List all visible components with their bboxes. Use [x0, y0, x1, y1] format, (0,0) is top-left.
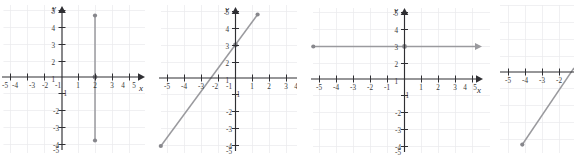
y-tick-b-p2: 2	[225, 60, 229, 68]
graph-choice-strip: -5 -4 -3 -2 -1 1 2 3 4 5 5 4 3 2 1 -1 -2…	[0, 0, 574, 158]
y-tick-b-p3: 3	[225, 43, 229, 51]
x-tick-d-m4: -4	[522, 77, 528, 85]
y-tick-c-m3: -3	[395, 127, 401, 135]
graph-a-canvas: -5 -4 -3 -2 -1 1 2 3 4 5 5 4 3 2 1 -1 -2…	[0, 0, 147, 158]
y-tick-b-m1: -1	[234, 91, 240, 99]
x-tick-a-p5: 5	[132, 82, 136, 90]
x-tick-c-m3: -3	[350, 84, 356, 92]
graph-choice-a[interactable]: -5 -4 -3 -2 -1 1 2 3 4 5 5 4 3 2 1 -1 -2…	[0, 0, 147, 158]
y-tick-a-p1: 1	[51, 76, 55, 84]
x-tick-c-m2: -2	[367, 84, 373, 92]
y-tick-c-p4: 4	[394, 27, 398, 35]
plot-line-b	[159, 12, 260, 148]
x-tick-a-p2: 2	[93, 82, 97, 90]
x-tick-a-m5: -5	[2, 82, 8, 90]
x-tick-d-m3: -3	[539, 77, 545, 85]
x-tick-c-m1: -1	[384, 84, 390, 92]
x-tick-a-p1: 1	[76, 82, 80, 90]
x-tick-c-m5: -5	[316, 84, 322, 92]
y-axis-label-a: y	[51, 3, 56, 13]
x-tick-b-p1: 1	[250, 83, 254, 91]
y-tick-a-m5: -5	[53, 147, 59, 155]
y-tick-b-p1: 1	[225, 77, 229, 85]
y-tick-b-m2: -2	[226, 109, 232, 117]
x-tick-b-p3: 3	[284, 83, 288, 91]
graph-c-canvas: -5 -4 -3 -2 -1 1 2 3 4 5 5 4 3 2 1 -1 -2…	[297, 0, 490, 158]
x-tick-c-p3: 3	[453, 84, 457, 92]
x-tick-b-p2: 2	[267, 83, 271, 91]
x-tick-d-m5: -5	[505, 77, 511, 85]
grid-a	[4, 5, 146, 153]
y-tick-a-p3: 3	[51, 42, 55, 50]
y-tick-a-m2: -2	[53, 108, 59, 116]
x-tick-c-p4: 4	[463, 84, 467, 92]
graph-d-canvas: -5 -4 -3 -2	[490, 0, 574, 158]
x-axis-label-c: x	[476, 85, 481, 95]
x-tick-a-m4: -4	[12, 82, 18, 90]
x-tick-d-m2: -2	[556, 77, 562, 85]
x-tick-a-p4: 4	[121, 82, 125, 90]
x-tick-b-m2: -2	[212, 83, 218, 91]
x-tick-b-m4: -4	[181, 83, 187, 91]
x-tick-a-m2: -2	[42, 82, 48, 90]
plot-line-d	[520, 68, 574, 147]
graph-choice-c[interactable]: -5 -4 -3 -2 -1 1 2 3 4 5 5 4 3 2 1 -1 -2…	[297, 0, 490, 158]
y-tick-c-m2: -2	[395, 110, 401, 118]
x-tick-c-m4: -4	[333, 84, 339, 92]
y-tick-c-m1: -1	[403, 92, 409, 100]
x-tick-b-m5: -5	[164, 83, 170, 91]
graph-choice-d[interactable]: -5 -4 -3 -2	[490, 0, 574, 158]
y-tick-c-m5: -5	[395, 149, 401, 157]
y-tick-a-p4: 4	[51, 25, 55, 33]
x-tick-c-p2: 2	[436, 84, 440, 92]
x-tick-a-m3: -3	[29, 82, 35, 90]
y-tick-b-p4: 4	[225, 26, 229, 34]
y-tick-a-m1: -1	[61, 90, 67, 98]
y-tick-c-p1: 1	[394, 78, 398, 86]
y-axis-label-c: y	[393, 5, 398, 15]
y-tick-c-p3: 3	[394, 44, 398, 52]
x-tick-a-p3: 3	[110, 82, 114, 90]
graph-choice-b[interactable]: -5 -4 -3 -2 -1 1 2 3 4 5 4 3 2 1 -1 -2 -…	[147, 0, 297, 158]
y-tick-a-m3: -3	[53, 125, 59, 133]
y-axis-label-b: y	[224, 4, 229, 14]
x-tick-b-m3: -3	[198, 83, 204, 91]
grid-d	[500, 5, 574, 153]
x-tick-c-p1: 1	[419, 84, 423, 92]
y-tick-c-p2: 2	[394, 61, 398, 69]
y-tick-b-m5: -5	[226, 148, 232, 156]
graph-b-canvas: -5 -4 -3 -2 -1 1 2 3 4 5 4 3 2 1 -1 -2 -…	[147, 0, 297, 158]
y-tick-a-p2: 2	[51, 59, 55, 67]
y-tick-b-m3: -3	[226, 126, 232, 134]
x-axis-label-a: x	[138, 83, 143, 93]
